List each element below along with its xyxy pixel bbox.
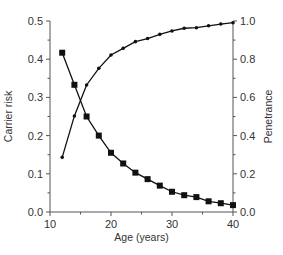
data-point-dot	[231, 21, 235, 25]
data-point-square	[120, 160, 126, 166]
data-point-square	[157, 183, 163, 189]
y-tick-label-left: 0.2	[28, 130, 43, 142]
y-tick-label-left: 0.4	[28, 53, 43, 65]
chart: 0.00.10.20.30.40.50.00.20.40.60.81.01020…	[0, 0, 283, 255]
y-tick-label-left: 0.0	[28, 206, 43, 218]
data-point-dot	[182, 26, 186, 30]
y-tick-label-left: 0.3	[28, 91, 43, 103]
data-point-dot	[134, 40, 138, 44]
data-point-dot	[170, 29, 174, 33]
y-tick-label-right: 0.0	[240, 206, 255, 218]
data-point-dot	[121, 47, 125, 51]
data-point-square	[193, 194, 199, 200]
data-point-dot	[109, 53, 113, 57]
data-point-square	[169, 189, 175, 195]
y-tick-label-right: 1.0	[240, 15, 255, 27]
data-point-dot	[195, 26, 199, 30]
data-point-square	[108, 150, 114, 156]
series-penetrance	[60, 21, 234, 159]
x-tick-label: 20	[105, 218, 117, 230]
series-line	[62, 23, 233, 158]
data-point-dot	[97, 67, 101, 71]
data-point-dot	[85, 83, 89, 87]
data-point-dot	[158, 33, 162, 37]
data-point-dot	[73, 114, 77, 118]
data-point-dot	[60, 156, 64, 160]
y-axis-title-right: Penetrance	[262, 89, 274, 143]
data-point-square	[145, 176, 151, 182]
y-tick-label-left: 0.1	[28, 168, 43, 180]
data-point-square	[206, 198, 212, 204]
data-point-square	[84, 114, 90, 120]
series-carrier-risk	[59, 50, 236, 208]
data-point-square	[230, 202, 236, 208]
x-axis-title: Age (years)	[114, 231, 168, 243]
data-point-dot	[207, 24, 211, 28]
x-tick-label: 10	[44, 218, 56, 230]
axes: 0.00.10.20.30.40.50.00.20.40.60.81.01020…	[28, 15, 256, 230]
y-tick-label-right: 0.6	[240, 91, 255, 103]
y-tick-label-right: 0.4	[240, 130, 255, 142]
data-point-square	[96, 133, 102, 139]
series-layer	[59, 21, 236, 208]
data-point-square	[71, 82, 77, 88]
y-tick-label-right: 0.8	[240, 53, 255, 65]
data-point-square	[218, 200, 224, 206]
y-tick-label-right: 0.2	[240, 168, 255, 180]
data-point-dot	[219, 22, 223, 26]
y-tick-label-left: 0.5	[28, 15, 43, 27]
data-point-square	[59, 50, 65, 56]
x-tick-label: 40	[227, 218, 239, 230]
data-point-square	[132, 170, 138, 176]
x-tick-label: 30	[166, 218, 178, 230]
series-line	[62, 53, 233, 205]
data-point-dot	[146, 37, 150, 41]
data-point-square	[181, 192, 187, 198]
y-axis-title-left: Carrier risk	[2, 90, 14, 142]
